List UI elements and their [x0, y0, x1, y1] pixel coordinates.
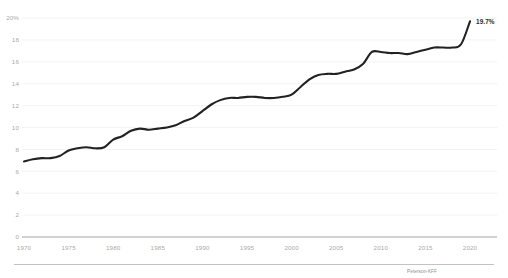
y-tick-label: 16: [12, 58, 20, 65]
y-tick-label: 2: [15, 211, 19, 218]
x-tick-label: 1995: [240, 244, 255, 251]
x-tick-label: 2010: [374, 244, 389, 251]
x-tick-label: 1985: [151, 244, 166, 251]
y-tick-label: 18: [12, 36, 20, 43]
x-tick-label: 2015: [418, 244, 433, 251]
chart-container: 20%181614121086420 197019751980198519901…: [0, 0, 508, 278]
source-label: Peterson-KFF: [407, 269, 437, 274]
line-chart: 20%181614121086420 197019751980198519901…: [0, 0, 508, 278]
x-tick-label: 1980: [106, 244, 121, 251]
y-tick-label: 20%: [6, 14, 19, 21]
x-tick-label: 1990: [195, 244, 210, 251]
y-tick-label: 6: [15, 168, 19, 175]
endpoint-value-label: 19.7%: [476, 18, 495, 25]
y-tick-label: 10: [12, 124, 20, 131]
y-tick-label: 14: [12, 80, 20, 87]
x-tick-label: 1970: [17, 244, 32, 251]
y-tick-label: 0: [15, 233, 19, 240]
x-tick-label: 2000: [284, 244, 299, 251]
y-tick-label: 4: [15, 189, 19, 196]
x-tick-label: 2005: [329, 244, 344, 251]
x-tick-label: 1975: [61, 244, 76, 251]
x-tick-label: 2020: [463, 244, 478, 251]
y-tick-label: 12: [12, 102, 20, 109]
chart-background: [0, 0, 508, 278]
y-tick-label: 8: [15, 146, 19, 153]
